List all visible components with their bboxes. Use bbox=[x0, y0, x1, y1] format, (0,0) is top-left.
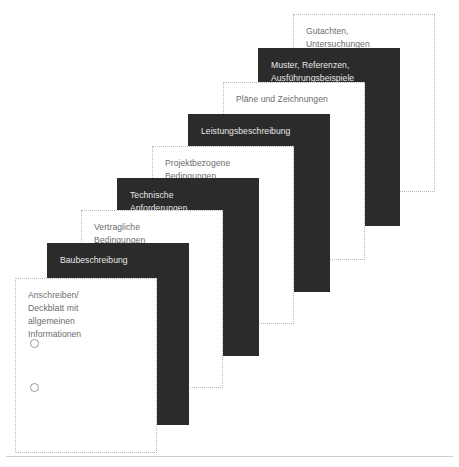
sheet-stack: Gutachten, Untersuchungen Muster, Refere… bbox=[0, 0, 459, 459]
sheet-anschreiben-deckblatt[interactable]: Anschreiben/ Deckblatt mit allgemeinen I… bbox=[15, 278, 157, 453]
sheet-label: Pläne und Zeichnungen bbox=[236, 93, 358, 106]
sheet-label: Anschreiben/ Deckblatt mit allgemeinen I… bbox=[28, 289, 150, 341]
document-stack-figure: Gutachten, Untersuchungen Muster, Refere… bbox=[0, 0, 459, 467]
baseline-rule bbox=[6, 456, 453, 457]
punch-hole-icon bbox=[30, 383, 39, 392]
sheet-label: Baubeschreibung bbox=[60, 254, 182, 267]
punch-hole-icon bbox=[30, 339, 39, 348]
sheet-label: Leistungsbeschreibung bbox=[201, 125, 323, 138]
